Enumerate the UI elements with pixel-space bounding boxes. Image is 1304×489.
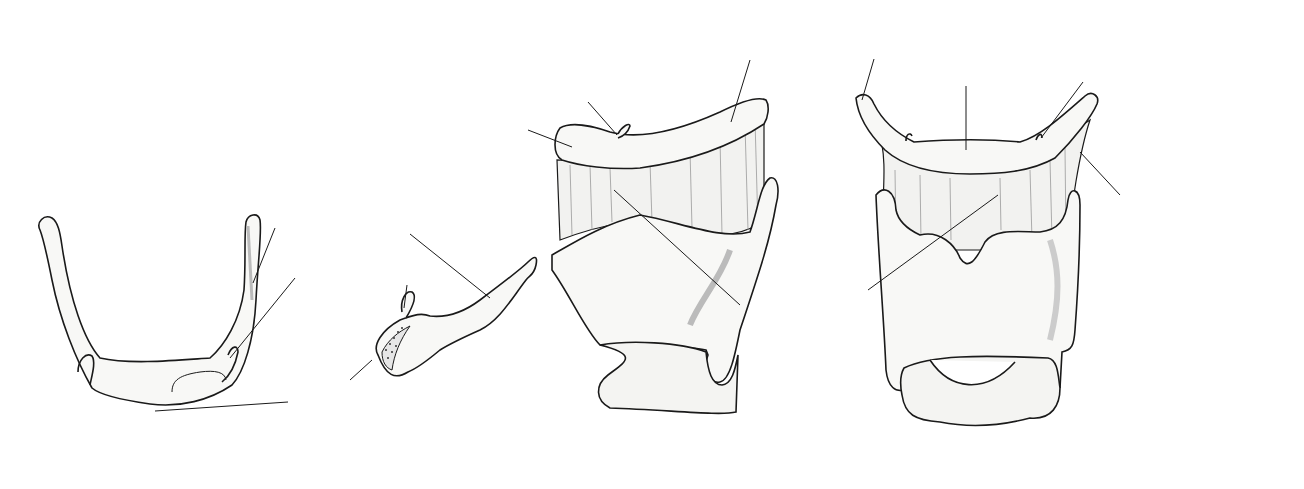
larynx-lateral-drawing xyxy=(552,99,778,414)
anatomy-figure xyxy=(0,0,1304,489)
hyoid-lateral-drawing xyxy=(376,257,536,375)
larynx-anterior-drawing xyxy=(856,94,1098,426)
hyoid-anterior-drawing xyxy=(39,215,261,405)
illustration-canvas xyxy=(0,0,1304,489)
